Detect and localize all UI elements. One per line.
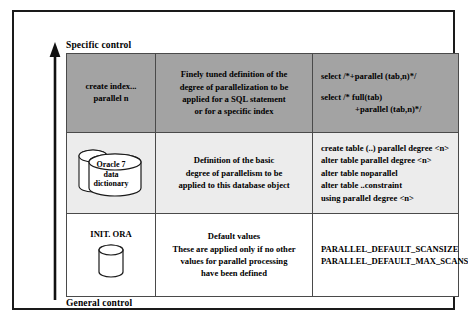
source-line: create index... <box>73 81 149 93</box>
axis-label-general-control: General control <box>66 298 132 308</box>
cell-source-specific: create index... parallel n <box>67 54 156 133</box>
db-label-line: data <box>69 170 153 180</box>
table-row: INIT. ORA Default values These are appli… <box>67 214 459 297</box>
cell-meaning-general: Default values These are applied only if… <box>156 214 313 297</box>
syntax-line: PARALLEL_DEFAULT_MAX_SCANS <box>321 255 452 267</box>
control-axis-arrow <box>48 42 62 302</box>
syntax-line: using parallel degree <n> <box>321 192 452 204</box>
cell-source-object: Oracle 7 data dictionary <box>67 133 156 214</box>
meaning-line: Definition of the basic <box>162 154 306 166</box>
table-row: create index... parallel n Finely tuned … <box>67 54 459 133</box>
init-ora-label: INIT. ORA <box>90 229 131 241</box>
meaning-line: Finely tuned definition of the <box>162 68 306 80</box>
meaning-line: or for a specific index <box>162 105 306 117</box>
meaning-line: values for parallel processing <box>162 255 306 267</box>
syntax-line: +parallel (tab,n)*/ <box>321 103 452 115</box>
syntax-line: select /* full(tab) <box>321 91 452 103</box>
axis-label-specific-control: Specific control <box>66 40 131 50</box>
cell-syntax-object: create table (..) parallel degree <n> al… <box>313 133 459 214</box>
meaning-line: degree of parallelization to be <box>162 81 306 93</box>
meaning-line: These are applied only if no other <box>162 243 306 255</box>
db-label-line: dictionary <box>69 179 153 189</box>
source-line: parallel n <box>73 93 149 105</box>
syntax-line: PARALLEL_DEFAULT_SCANSIZE <box>321 243 452 255</box>
syntax-line: create table (..) parallel degree <n> <box>321 142 452 154</box>
cell-source-general: INIT. ORA <box>67 214 156 297</box>
syntax-line: select /*+parallel (tab,n)*/ <box>321 70 452 82</box>
cell-syntax-general: PARALLEL_DEFAULT_SCANSIZE PARALLEL_DEFAU… <box>313 214 459 297</box>
syntax-line: alter table parallel degree <n> <box>321 154 452 166</box>
cell-syntax-specific: select /*+parallel (tab,n)*/ select /* f… <box>313 54 459 133</box>
cell-meaning-specific: Finely tuned definition of the degree of… <box>156 54 313 133</box>
meaning-line: have been defined <box>162 267 306 279</box>
syntax-line: alter table ..constraint <box>321 179 452 191</box>
figure-frame: Specific control General control create … <box>12 10 455 310</box>
database-cylinder-icon <box>91 241 131 281</box>
cell-meaning-object: Definition of the basic degree of parall… <box>156 133 313 214</box>
meaning-line: applied to this database object <box>162 179 306 191</box>
syntax-line: alter table noparallel <box>321 167 452 179</box>
meaning-line: degree of parallelism to be <box>162 167 306 179</box>
table-row: Oracle 7 data dictionary Definition of t… <box>67 133 459 214</box>
syntax-spacer <box>321 83 452 91</box>
database-cylinder-icon: Oracle 7 data dictionary <box>69 142 153 204</box>
meaning-line: Default values <box>162 230 306 242</box>
parallel-control-matrix: create index... parallel n Finely tuned … <box>66 53 459 297</box>
meaning-line: applied for a SQL statement <box>162 93 306 105</box>
up-arrow-icon <box>48 42 62 302</box>
db-label-line: Oracle 7 <box>69 160 153 170</box>
